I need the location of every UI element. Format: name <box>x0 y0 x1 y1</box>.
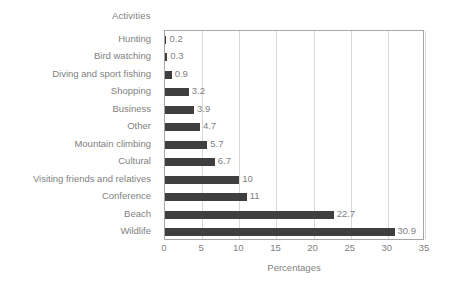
gridline-35 <box>425 31 426 239</box>
x-tick-label: 10 <box>223 242 253 254</box>
x-tick-label: 0 <box>149 242 179 254</box>
bar <box>165 88 189 96</box>
value-label: 10 <box>242 174 253 184</box>
x-axis-tick-labels: 05101520253035 <box>0 242 450 256</box>
bar <box>165 211 334 219</box>
bar <box>165 123 200 131</box>
gridline-5 <box>202 31 203 239</box>
value-label: 4.7 <box>203 121 216 131</box>
value-label: 0.9 <box>175 69 188 79</box>
category-label: Bird watching <box>0 51 158 61</box>
value-label: 6.7 <box>218 156 231 166</box>
gridline-10 <box>239 31 240 239</box>
category-label: Beach <box>0 209 158 219</box>
category-label: Hunting <box>0 34 158 44</box>
x-tick-label: 25 <box>335 242 365 254</box>
value-label: 22.7 <box>337 209 356 219</box>
value-label: 0.2 <box>169 34 182 44</box>
category-label: Conference <box>0 191 158 201</box>
bar <box>165 228 395 236</box>
chart-title: Activities <box>112 10 232 21</box>
category-label: Diving and sport fishing <box>0 69 158 79</box>
x-tick-label: 5 <box>186 242 216 254</box>
plot-area <box>164 30 424 240</box>
bar <box>165 53 167 61</box>
value-label: 3.9 <box>197 104 210 114</box>
category-label: Shopping <box>0 86 158 96</box>
category-label: Mountain climbing <box>0 139 158 149</box>
category-axis-labels: HuntingBird watchingDiving and sport fis… <box>0 30 158 240</box>
value-label: 11 <box>250 191 260 201</box>
bar <box>165 176 239 184</box>
category-label: Visiting friends and relatives <box>0 174 158 184</box>
x-tick-label: 15 <box>260 242 290 254</box>
bar-chart: Activities HuntingBird watchingDiving an… <box>0 0 450 288</box>
gridline-30 <box>388 31 389 239</box>
category-label: Other <box>0 121 158 131</box>
gridline-20 <box>314 31 315 239</box>
value-label: 5.7 <box>210 139 223 149</box>
value-label: 3.2 <box>192 86 205 96</box>
category-label: Wildlife <box>0 226 158 236</box>
category-label: Business <box>0 104 158 114</box>
value-label: 0.3 <box>170 51 183 61</box>
bar <box>165 193 247 201</box>
x-tick-label: 20 <box>298 242 328 254</box>
x-tick-label: 35 <box>409 242 439 254</box>
bar <box>165 106 194 114</box>
category-label: Cultural <box>0 156 158 166</box>
bar <box>165 71 172 79</box>
x-tick-label: 30 <box>372 242 402 254</box>
value-label: 30.9 <box>398 226 417 236</box>
bar <box>165 158 215 166</box>
gridline-15 <box>276 31 277 239</box>
bar <box>165 36 166 44</box>
x-axis-title: Percentages <box>164 262 424 273</box>
bar <box>165 141 207 149</box>
